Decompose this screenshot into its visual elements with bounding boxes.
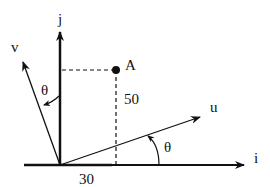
u-angle-arc [148,136,159,165]
point-a-label: A [125,57,136,73]
u-angle-label: θ [164,139,171,155]
y-value-label: 50 [124,91,139,107]
point-a-marker [112,66,120,74]
u-axis-vector [60,117,200,165]
j-axis-label: j [57,11,62,27]
v-axis-vector [23,62,60,165]
v-angle-label: θ [41,82,48,98]
i-axis-label: i [254,150,258,166]
x-value-label: 30 [79,171,94,187]
diagram-canvas: i j A 50 30 u v θ θ [0,0,270,187]
u-axis-label: u [210,99,218,115]
v-axis-label: v [11,39,19,55]
